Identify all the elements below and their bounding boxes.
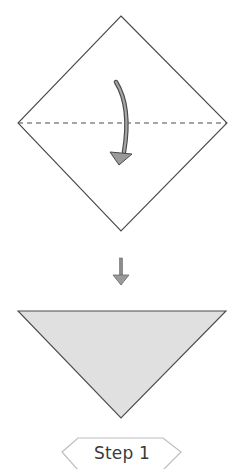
- step-label: Step 1: [60, 436, 184, 469]
- down-arrow-icon: [113, 258, 129, 285]
- origami-diagram: [0, 0, 248, 469]
- folded-triangle: [18, 311, 226, 418]
